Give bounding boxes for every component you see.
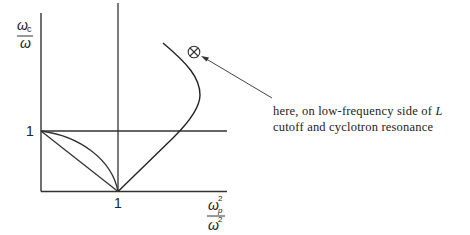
marker-circle-x-icon bbox=[188, 46, 200, 58]
cma-diagram: ω c ω 1 1 ω 2 p ω 2 here, on low-frequen… bbox=[0, 0, 470, 235]
annotation-l-symbol: L bbox=[435, 104, 442, 118]
x-label-numerator-sup: 2 bbox=[218, 194, 223, 203]
diagonal-line-left bbox=[41, 131, 118, 192]
annotation-text: here, on low-frequency side of L cutoff … bbox=[273, 103, 443, 135]
arrow-icon bbox=[201, 56, 272, 98]
y-label-subscript: c bbox=[27, 24, 32, 34]
y-label-denominator: ω bbox=[20, 35, 31, 51]
annotation-line-1: here, on low-frequency side of L bbox=[273, 103, 443, 119]
y-tick-label: 1 bbox=[26, 123, 34, 139]
x-label-denominator-sup: 2 bbox=[218, 215, 223, 224]
x-label-subscript: p bbox=[217, 206, 223, 215]
x-tick-label: 1 bbox=[114, 195, 122, 211]
annotation-line-1-text: here, on low-frequency side of bbox=[273, 104, 435, 118]
x-axis-label: ω 2 p ω 2 bbox=[207, 194, 225, 233]
y-axis-label: ω c ω bbox=[17, 17, 33, 51]
annotation-line-2: cutoff and cyclotron resonance bbox=[273, 119, 443, 135]
l-cutoff-curve bbox=[118, 43, 200, 192]
